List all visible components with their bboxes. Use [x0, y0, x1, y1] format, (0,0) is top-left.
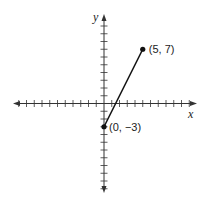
point-end — [140, 47, 145, 52]
point-start-label: (0, −3) — [109, 121, 141, 133]
point-end-label: (5, 7) — [149, 43, 175, 55]
y-axis-bottom-arrow-icon — [102, 186, 107, 193]
x-axis-right-arrow-icon — [190, 101, 197, 106]
y-axis-top-arrow-icon — [102, 14, 107, 21]
axes — [13, 14, 197, 193]
y-axis-label: y — [92, 10, 99, 24]
x-axis-label: x — [187, 107, 194, 121]
line-segment — [104, 49, 143, 127]
coordinate-plane: (0, −3) (5, 7) x y — [0, 0, 204, 198]
point-start — [101, 124, 106, 129]
